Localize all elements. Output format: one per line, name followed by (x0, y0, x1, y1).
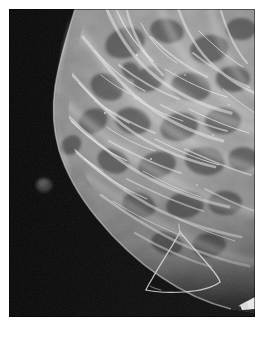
film-grain-overlay (9, 9, 255, 317)
caption-strip (0, 320, 263, 339)
mammogram-canvas (9, 9, 255, 317)
mammogram-image-panel (9, 9, 255, 317)
page-root (0, 0, 263, 339)
